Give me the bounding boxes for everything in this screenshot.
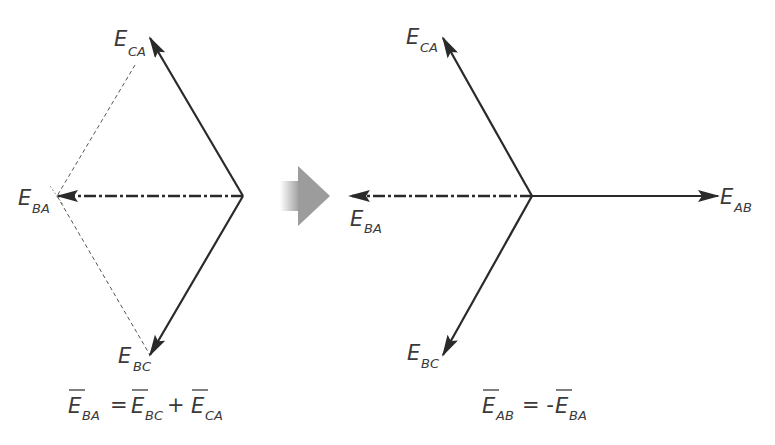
label-e-bc-right: E BC <box>407 341 440 371</box>
vector-e-bc-right <box>443 196 532 355</box>
svg-text:BC: BC <box>421 356 440 371</box>
svg-text:E: E <box>114 27 128 51</box>
label-e-ba-left: E BA <box>18 186 50 216</box>
svg-text:E: E <box>350 207 364 231</box>
svg-text:= -: = - <box>522 393 554 417</box>
construction-line-lower <box>57 196 150 355</box>
gradient-right-arrow-icon <box>280 166 330 226</box>
svg-text:CA: CA <box>128 44 146 59</box>
svg-text:E: E <box>482 394 496 418</box>
svg-text:E: E <box>68 394 82 418</box>
svg-text:BA: BA <box>569 408 587 423</box>
equation-left: E BA = E BC + E CA <box>68 390 223 423</box>
svg-text:E: E <box>720 185 734 209</box>
label-e-ca-right: E CA <box>406 25 438 55</box>
svg-text:E: E <box>131 394 145 418</box>
svg-text:E: E <box>406 25 420 49</box>
construction-line-upper <box>57 65 135 196</box>
vector-e-bc-left <box>150 196 243 355</box>
label-e-bc-left: E BC <box>118 344 152 374</box>
label-e-ba-right: E BA <box>350 207 382 236</box>
equation-right: E AB = - E BA <box>482 390 587 423</box>
svg-text:E: E <box>407 341 421 365</box>
svg-text:BC: BC <box>133 359 152 374</box>
svg-text:BC: BC <box>145 408 164 423</box>
svg-text:CA: CA <box>420 40 438 55</box>
label-e-ab-right: E AB <box>720 185 752 215</box>
construction-tick <box>50 186 64 206</box>
svg-text:BA: BA <box>32 201 50 216</box>
svg-text:BA: BA <box>82 408 100 423</box>
svg-text:BA: BA <box>364 221 382 236</box>
svg-text:AB: AB <box>495 408 514 423</box>
right-diagram: E CA E BA E BC E AB E AB = - E BA <box>350 25 752 423</box>
svg-text:AB: AB <box>733 200 752 215</box>
svg-text:E: E <box>555 394 569 418</box>
svg-text:E: E <box>191 394 205 418</box>
svg-text:+: + <box>167 393 185 417</box>
vector-e-ca-left <box>150 38 243 196</box>
label-e-ca-left: E CA <box>114 27 146 59</box>
svg-text:=: = <box>110 393 128 417</box>
svg-text:CA: CA <box>205 408 223 423</box>
vector-e-ca-right <box>443 38 532 196</box>
left-diagram: E CA E BA E BC E BA = E BC + E CA <box>18 27 243 423</box>
svg-text:E: E <box>118 344 132 368</box>
phasor-diagram: E CA E BA E BC E BA = E BC + E CA <box>0 0 775 445</box>
svg-text:E: E <box>18 186 32 210</box>
